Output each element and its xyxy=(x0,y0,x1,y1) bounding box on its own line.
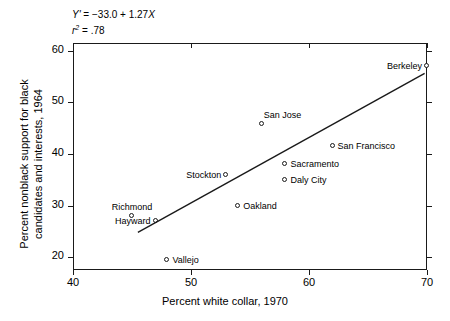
x-tick-top-70 xyxy=(427,43,428,48)
x-tick-top-50 xyxy=(191,43,192,48)
data-point-label: San Jose xyxy=(264,110,302,120)
x-tick-40 xyxy=(73,270,74,275)
x-tick-label-60: 60 xyxy=(289,276,329,288)
data-point-label: Sacramento xyxy=(290,159,339,169)
y-tick-right-50 xyxy=(427,102,432,103)
y-axis-title-line1: Percent nonblack support for black xyxy=(18,79,30,248)
y-tick-right-40 xyxy=(427,154,432,155)
x-tick-70 xyxy=(427,270,428,275)
r-squared-annotation: r2 = .78 xyxy=(72,21,155,37)
data-point-label: Berkeley xyxy=(387,61,422,71)
data-point-marker xyxy=(424,63,429,68)
r-squared-value: = .78 xyxy=(79,25,104,36)
x-tick-label-50: 50 xyxy=(171,276,211,288)
regression-equation: Y' = −33.0 + 1.27X xyxy=(72,8,155,21)
x-tick-label-40: 40 xyxy=(53,276,93,288)
data-point-label: Daly City xyxy=(290,175,326,185)
equation-x-symbol: X xyxy=(148,9,155,20)
data-point-label: San Francisco xyxy=(338,141,396,151)
y-tick-60 xyxy=(68,51,73,52)
data-point-marker xyxy=(153,218,158,223)
y-tick-right-30 xyxy=(427,206,432,207)
y-tick-30 xyxy=(68,206,73,207)
data-point-label: Stockton xyxy=(186,170,221,180)
y-tick-40 xyxy=(68,154,73,155)
regression-annotation: Y' = −33.0 + 1.27X r2 = .78 xyxy=(72,8,155,37)
data-point-marker xyxy=(259,121,264,126)
scatter-plot-figure: Y' = −33.0 + 1.27X r2 = .78 405060702030… xyxy=(0,0,450,321)
y-tick-right-20 xyxy=(427,257,432,258)
data-point-label: Hayward xyxy=(115,216,151,226)
data-point-label: Vallejo xyxy=(172,255,198,265)
data-point-label: Oakland xyxy=(243,201,277,211)
y-tick-20 xyxy=(68,257,73,258)
y-tick-50 xyxy=(68,102,73,103)
x-tick-50 xyxy=(191,270,192,275)
data-point-marker xyxy=(235,203,240,208)
x-tick-top-60 xyxy=(309,43,310,48)
x-tick-label-70: 70 xyxy=(407,276,447,288)
data-point-label: Richmond xyxy=(112,202,153,212)
data-point-marker xyxy=(330,143,335,148)
equation-y-symbol: Y' xyxy=(72,9,81,20)
x-axis-title: Percent white collar, 1970 xyxy=(0,295,450,307)
y-axis-title: Percent nonblack support for black candi… xyxy=(17,39,45,289)
y-tick-right-60 xyxy=(427,51,432,52)
x-tick-top-40 xyxy=(73,43,74,48)
x-tick-60 xyxy=(309,270,310,275)
plot-frame xyxy=(73,43,427,270)
equation-body: = −33.0 + 1.27 xyxy=(81,9,149,20)
y-axis-title-line2: candidates and interests, 1964 xyxy=(32,89,44,239)
